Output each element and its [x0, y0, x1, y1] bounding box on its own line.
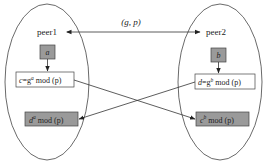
diffie-hellman-diagram: (g, p) peer1 peer2 a c=ga mod (p) b d=gb… — [0, 0, 267, 164]
c-to-peer2-arrow — [74, 80, 195, 119]
peer1-secret: a — [46, 48, 50, 57]
peer1-label: peer1 — [37, 27, 57, 37]
shared-params-label: (g, p) — [121, 17, 141, 27]
peer2-label: peer2 — [206, 27, 226, 37]
peer2-public-value: d=gb mod (p) — [198, 77, 241, 88]
peer2-secret: b — [217, 51, 221, 60]
peer1-public-value: c=ga mod (p) — [19, 75, 62, 86]
